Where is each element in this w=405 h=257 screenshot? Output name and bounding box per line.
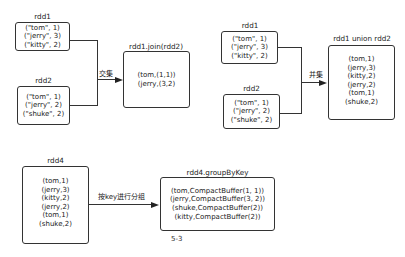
union-rdd2-row: ("jerry", 2) xyxy=(233,107,270,116)
join-result-box: (tom,(1,1)) (jerry,(3,2) xyxy=(123,51,190,108)
group-result-box: (tom,CompactBuffer(1, 1)) (jerry,Compact… xyxy=(160,177,275,231)
rdd2-row: ("jerry", 2) xyxy=(25,101,62,110)
union-rdd1-row: ("jerry", 3) xyxy=(231,43,268,52)
union-result-row: (jerry,3) xyxy=(347,64,375,73)
union-rdd2-box: ("tom", 1) ("jerry", 2) ("shuke", 2) xyxy=(223,94,280,129)
union-rdd1-row: ("kitty", 2) xyxy=(231,52,267,61)
rdd4-row: (kitty,2) xyxy=(42,194,70,203)
rdd2-box: ("tom", 1) ("jerry", 2) ("shuke", 2) xyxy=(17,86,70,125)
group-result-row: (shuke,CompactBuffer(2)) xyxy=(172,204,263,213)
rdd1-row: ("jerry", 3) xyxy=(24,32,61,41)
group-result-row: (kitty,CompactBuffer(2)) xyxy=(175,213,261,222)
connector-line xyxy=(70,40,98,41)
union-result-title: rdd1 union rdd2 xyxy=(322,34,402,43)
connector-line xyxy=(89,204,153,205)
union-label: 并集 xyxy=(309,69,323,79)
group-result-title: rdd4.groupByKey xyxy=(160,168,275,177)
join-result-row: (jerry,(3,2) xyxy=(138,80,176,89)
connector-line xyxy=(97,79,117,80)
rdd4-row: (jerry,3) xyxy=(41,186,69,195)
arrow-head-icon xyxy=(319,80,327,86)
connector-line xyxy=(280,113,302,114)
union-result-row: (jerry,2) xyxy=(347,81,375,90)
connector-line xyxy=(301,47,302,114)
union-result-row: (shuke,2) xyxy=(345,98,378,107)
union-result-row: (tom,1) xyxy=(349,55,375,64)
figure-caption: 5-3 xyxy=(171,235,182,243)
group-result-row: (jerry,CompactBuffer(3, 2)) xyxy=(170,195,265,204)
rdd4-row: (tom,1) xyxy=(43,177,69,186)
rdd2-row: ("shuke", 2) xyxy=(23,110,64,119)
connector-line xyxy=(70,105,98,106)
arrow-head-icon xyxy=(151,202,159,208)
rdd4-row: (shuke,2) xyxy=(39,220,72,229)
union-rdd1-box: ("tom", 1) ("jerry", 3) ("kitty", 2) xyxy=(221,31,278,64)
rdd2-title: rdd2 xyxy=(17,76,70,85)
group-by-key-label: 按key进行分组 xyxy=(98,191,145,201)
union-result-row: (kitty,2) xyxy=(348,72,376,81)
group-result-row: (tom,CompactBuffer(1, 1)) xyxy=(171,187,264,196)
rdd4-row: (jerry,2) xyxy=(41,203,69,212)
union-rdd2-row: ("shuke", 2) xyxy=(231,116,272,125)
union-rdd1-row: ("tom", 1) xyxy=(232,35,267,44)
rdd1-title: rdd1 xyxy=(15,12,70,21)
join-result-row: (tom,(1,1)) xyxy=(137,71,175,80)
rdd1-box: ("tom", 1) ("jerry", 3) ("kitty", 2) xyxy=(15,22,70,51)
rdd4-title: rdd4 xyxy=(22,156,89,165)
intersection-label: 交集 xyxy=(99,68,113,78)
rdd4-row: (tom,1) xyxy=(43,211,69,220)
union-rdd2-title: rdd2 xyxy=(223,84,280,93)
union-rdd1-title: rdd1 xyxy=(221,21,279,30)
connector-line xyxy=(301,82,321,83)
rdd1-row: ("kitty", 2) xyxy=(24,41,60,50)
union-result-row: (tom,1) xyxy=(349,89,375,98)
rdd4-box: (tom,1) (jerry,3) (kitty,2) (jerry,2) (t… xyxy=(22,166,89,244)
join-result-title: rdd1.join(rdd2) xyxy=(118,42,194,51)
rdd1-row: ("tom", 1) xyxy=(25,24,60,33)
connector-line xyxy=(278,47,302,48)
union-result-box: (tom,1) (jerry,3) (kitty,2) (jerry,2) (t… xyxy=(328,45,395,120)
arrow-head-icon xyxy=(115,77,123,83)
union-rdd2-row: ("tom", 1) xyxy=(234,99,269,108)
rdd2-row: ("tom", 1) xyxy=(26,93,61,102)
